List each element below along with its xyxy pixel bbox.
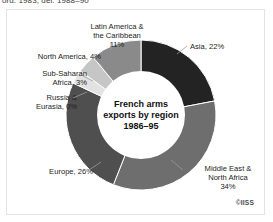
slice-label-sub-saharan-africa: Sub-Saharan Africa, 3% (15, 70, 87, 88)
slice-label-middle-east-north-africa: Middle East & North Africa 34% (185, 165, 271, 191)
slice-label-russia-eurasia: Russia & Eurasia, 0% (15, 94, 77, 112)
donut-hole (97, 71, 185, 159)
slice-label-europe: Europe, 26% (21, 168, 93, 177)
slice-label-north-america: North America, 4% (15, 53, 101, 62)
slice-label-asia: Asia, 22% (190, 43, 270, 52)
slice-label-latin-america: Latin America & the Caribbean 11% (71, 23, 163, 49)
caption-above-chart: ord. 1983, del. 1988–90 (2, 0, 202, 5)
copyright-credit: ©IISS (236, 199, 254, 206)
chart-frame: French arms exports by region 1986–95 La… (6, 9, 265, 215)
